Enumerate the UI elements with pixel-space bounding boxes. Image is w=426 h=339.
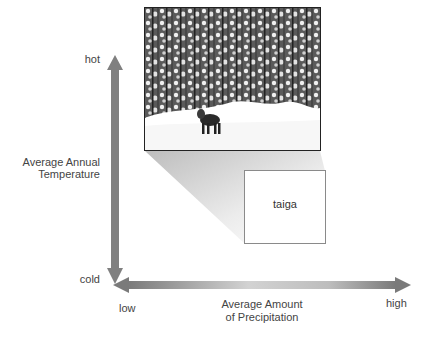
snowy-forest-illustration [145, 8, 320, 150]
precipitation-axis-arrow [113, 277, 411, 293]
x-axis-left-label: low [119, 302, 136, 314]
y-axis-title-line1: Average Annual [10, 156, 100, 168]
y-axis-top-label: hot [80, 53, 100, 65]
biome-box-taiga: taiga [244, 170, 326, 244]
x-axis-title-line1: Average Amount [212, 298, 312, 310]
y-axis-bottom-label: cold [70, 273, 100, 285]
biome-label: taiga [273, 198, 297, 210]
x-axis-right-label: high [386, 297, 407, 309]
y-axis-title-line2: Temperature [10, 168, 100, 180]
taiga-photo [144, 7, 321, 151]
temperature-axis-arrow [107, 55, 123, 284]
x-axis-title-line2: of Precipitation [212, 311, 312, 323]
